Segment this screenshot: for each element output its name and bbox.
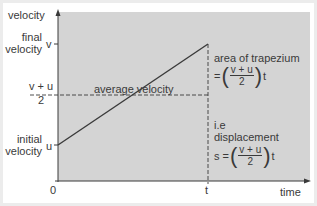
displacement-formula: s = ( v + u 2 ) t — [214, 144, 275, 167]
disp-t: t — [272, 150, 275, 162]
area-fraction: v + u 2 — [230, 64, 254, 87]
final-velocity-label: final velocity — [2, 31, 42, 55]
disp-numerator: v + u — [238, 144, 262, 156]
displacement-label: displacement — [214, 131, 279, 143]
final-velocity-line1: final — [22, 31, 42, 43]
area-denominator: 2 — [230, 76, 254, 87]
left-paren: ( — [230, 145, 237, 167]
avg-numerator: v + u — [28, 80, 54, 92]
x-axis-arrow-icon — [304, 179, 311, 184]
x-axis-label: time — [280, 186, 301, 198]
origin-label: 0 — [50, 184, 56, 196]
u-symbol: u — [46, 140, 52, 152]
initial-velocity-line1: initial — [17, 133, 42, 145]
area-formula: = ( v + u 2 ) t — [214, 64, 266, 87]
v-symbol: v — [46, 38, 52, 50]
right-paren: ) — [255, 65, 262, 87]
area-equals: = — [214, 70, 220, 82]
initial-velocity-label: initial velocity — [2, 133, 42, 157]
left-paren: ( — [221, 65, 228, 87]
final-velocity-line2: velocity — [5, 43, 42, 55]
average-velocity-label: average velocity — [94, 83, 174, 95]
area-numerator: v + u — [230, 64, 254, 76]
area-t: t — [263, 70, 266, 82]
avg-denominator: 2 — [28, 94, 54, 106]
initial-velocity-line2: velocity — [5, 145, 42, 157]
y-axis-label: velocity — [8, 9, 45, 21]
y-axis-arrow-icon — [56, 9, 61, 16]
disp-s-equals: s = — [214, 150, 229, 162]
ie-label: i.e — [214, 119, 226, 131]
right-paren: ) — [263, 145, 270, 167]
disp-fraction: v + u 2 — [238, 144, 262, 167]
average-velocity-tick-label: v + u 2 — [28, 80, 54, 106]
disp-denominator: 2 — [238, 156, 262, 167]
t-tick-label: t — [205, 184, 208, 196]
